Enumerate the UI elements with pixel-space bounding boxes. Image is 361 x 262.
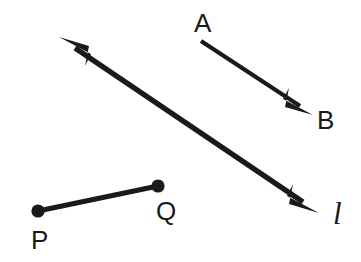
point-q-dot <box>151 179 164 192</box>
point-p-dot <box>31 204 44 217</box>
label-point-a: A <box>194 10 211 36</box>
label-point-b: B <box>317 107 334 133</box>
label-point-p: P <box>31 227 48 253</box>
geometry-canvas <box>0 0 361 262</box>
label-line-l: l <box>333 198 342 229</box>
figure-background <box>0 0 361 262</box>
geometry-figure: A B P Q l <box>0 0 361 262</box>
label-point-q: Q <box>156 198 176 224</box>
